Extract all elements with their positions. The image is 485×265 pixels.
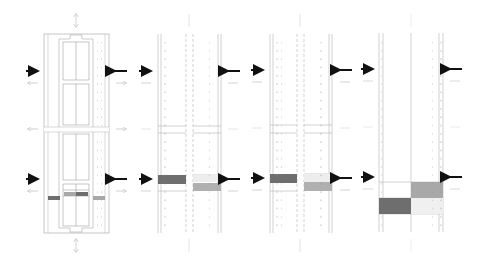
panel-2 xyxy=(158,14,221,252)
panel-3 xyxy=(270,14,332,252)
block-mid xyxy=(411,182,443,198)
block-very-light xyxy=(193,175,221,182)
block-light xyxy=(64,192,76,196)
block-dark xyxy=(379,198,411,214)
block-dark xyxy=(76,192,88,196)
faint-arrow-icon xyxy=(252,82,350,190)
diagram-canvas xyxy=(0,0,485,265)
block-very-light xyxy=(411,198,443,214)
faint-arrow-icon xyxy=(28,83,126,191)
faint-arrow-icon xyxy=(363,81,460,189)
block-dark xyxy=(270,174,297,183)
faint-arrow-icon xyxy=(141,83,238,191)
panel-1 xyxy=(44,14,109,253)
block-mid xyxy=(193,183,221,191)
panel-4 xyxy=(379,14,443,252)
